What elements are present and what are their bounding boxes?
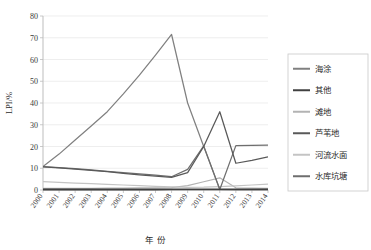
y-tick-label: 10 [30, 164, 38, 173]
x-tick-label: 2013 [237, 192, 253, 210]
legend-label-2: 其他 [315, 85, 332, 95]
line-chart: 0102030405060708020002001200220032004200… [0, 0, 371, 250]
x-tick-label: 2014 [254, 192, 270, 210]
x-tick-label: 2012 [221, 192, 237, 210]
x-tick-label-group: 2011 [206, 192, 222, 210]
chart-figure: 0102030405060708020002001200220032004200… [0, 0, 371, 250]
y-tick-label: 20 [30, 143, 38, 152]
y-tick-label: 60 [30, 56, 38, 65]
legend-label-5: 河流水面 [315, 150, 347, 160]
x-tick-label-group: 2001 [45, 192, 61, 210]
x-axis-title: 年 份 [145, 235, 165, 245]
x-tick-label: 2009 [173, 192, 189, 210]
x-tick-label-group: 2009 [173, 192, 189, 210]
y-axis-title-group: LPI/% [4, 92, 14, 114]
legend-box [288, 54, 368, 191]
x-tick-label-group: 2000 [29, 192, 45, 210]
x-tick-label-group: 2007 [141, 192, 157, 210]
series-line-4 [43, 112, 268, 178]
x-tick-label: 2003 [77, 192, 93, 210]
x-tick-label-group: 2003 [77, 192, 93, 210]
series-line-5 [43, 182, 268, 188]
x-tick-label: 2010 [189, 192, 205, 210]
y-tick-label: 40 [30, 99, 38, 108]
x-tick-label: 2000 [29, 192, 45, 210]
x-tick-label: 2001 [45, 192, 61, 210]
x-tick-label-group: 2008 [157, 192, 173, 210]
x-tick-label-group: 2010 [189, 192, 205, 210]
series-line-1 [43, 34, 268, 189]
x-tick-label: 2008 [157, 192, 173, 210]
legend-label-6: 水库坑塘 [315, 171, 347, 181]
x-tick-label-group: 2014 [254, 192, 270, 210]
x-tick-label: 2011 [206, 192, 222, 210]
y-tick-label: 70 [30, 34, 38, 43]
x-tick-label-group: 2012 [221, 192, 237, 210]
x-tick-label: 2005 [109, 192, 125, 210]
x-tick-label-group: 2002 [61, 192, 77, 210]
x-tick-label: 2007 [141, 192, 157, 210]
x-tick-label: 2002 [61, 192, 77, 210]
data-lines [43, 34, 268, 189]
x-tick-label-group: 2013 [237, 192, 253, 210]
y-axis-title: LPI/% [4, 92, 14, 114]
legend-label-4: 芦苇地 [315, 128, 340, 138]
x-tick-label: 2004 [93, 192, 109, 210]
legend-label-3: 滩地 [315, 107, 332, 117]
y-tick-label: 30 [30, 121, 38, 130]
y-tick-label: 80 [30, 12, 38, 21]
x-tick-label-group: 2006 [125, 192, 141, 210]
legend-label-1: 海涂 [315, 64, 332, 74]
y-tick-label: 50 [30, 77, 38, 86]
x-tick-label-group: 2004 [93, 192, 109, 210]
x-tick-label: 2006 [125, 192, 141, 210]
x-tick-label-group: 2005 [109, 192, 125, 210]
